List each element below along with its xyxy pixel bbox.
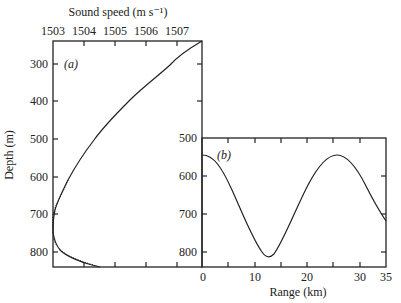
b-y-tick-500: 500 xyxy=(179,131,197,145)
b-x-tick-10: 10 xyxy=(249,270,261,284)
a-y-tick-700: 700 xyxy=(30,207,48,221)
sound-speed-profile-solid xyxy=(53,41,202,267)
panel-a-label: (a) xyxy=(64,57,78,71)
depth-axis-title: Depth (m) xyxy=(2,130,16,180)
panel-b-label: (b) xyxy=(217,148,231,162)
b-x-tick-0: 0 xyxy=(200,270,206,284)
panel-a-y-ticks xyxy=(53,64,202,252)
a-y-tick-600: 600 xyxy=(30,170,48,184)
figure-canvas: 1503 1504 1505 1506 1507 Sound speed (m … xyxy=(0,0,401,303)
a-x-tick-1505: 1505 xyxy=(103,24,127,38)
b-y-tick-800: 800 xyxy=(179,245,197,259)
b-y-tick-600: 600 xyxy=(179,169,197,183)
a-x-tick-1507: 1507 xyxy=(165,24,189,38)
ray-path-curve xyxy=(202,155,386,257)
b-x-tick-30: 30 xyxy=(354,270,366,284)
sound-speed-profile-dotted xyxy=(53,180,99,267)
panel-b: 500 600 700 800 0 10 20 30 35 Range (km)… xyxy=(179,131,392,299)
a-y-tick-400: 400 xyxy=(30,94,48,108)
sound-speed-axis-title: Sound speed (m s⁻¹) xyxy=(69,5,168,19)
a-x-tick-1503: 1503 xyxy=(41,24,65,38)
a-y-tick-800: 800 xyxy=(30,245,48,259)
range-axis-title: Range (km) xyxy=(270,285,327,299)
a-x-tick-1506: 1506 xyxy=(134,24,158,38)
panel-b-x-ticks xyxy=(228,138,360,267)
b-y-tick-700: 700 xyxy=(179,207,197,221)
a-x-tick-1504: 1504 xyxy=(72,24,96,38)
a-y-tick-300: 300 xyxy=(30,57,48,71)
panel-a-x-ticks xyxy=(84,41,177,267)
b-x-tick-35: 35 xyxy=(380,270,392,284)
b-x-tick-20: 20 xyxy=(301,270,313,284)
panel-a-frame xyxy=(53,41,202,267)
panel-a: 1503 1504 1505 1506 1507 Sound speed (m … xyxy=(2,5,202,267)
a-y-tick-500: 500 xyxy=(30,132,48,146)
